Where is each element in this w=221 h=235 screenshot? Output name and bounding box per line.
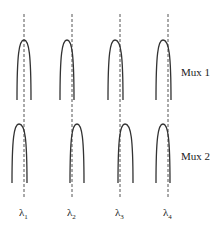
lambda-label-1: λ1 [19,206,28,221]
mux1-passband-curves [17,40,171,100]
wavelength-labels: λ1λ2λ3λ4 [19,206,172,221]
mux1-peak-4 [156,40,171,100]
mux2-passband-curves [12,124,170,183]
lambda-label-2: λ2 [67,206,76,221]
lambda-label-3: λ3 [115,206,124,221]
row-label-mux2: Mux 2 [181,150,210,162]
wavelength-reference-lines [24,14,168,197]
lambda-label-4: λ4 [163,206,172,221]
mux1-peak-3 [108,40,123,100]
mux2-peak-1 [12,124,27,183]
wavelength-mux-diagram: Mux 1 Mux 2 λ1λ2λ3λ4 [0,0,221,235]
row-label-mux1: Mux 1 [181,66,210,78]
